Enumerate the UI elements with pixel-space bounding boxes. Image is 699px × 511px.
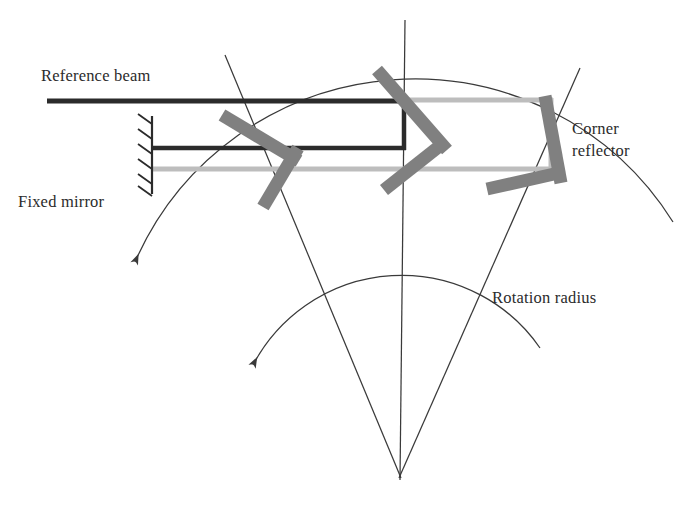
corner-reflector-shallow-bar <box>487 172 563 189</box>
label-rotation-radius: Rotation radius <box>492 288 596 308</box>
center-mirror-upper-bar <box>377 70 447 150</box>
optics-group <box>222 70 563 207</box>
light-beam-group <box>152 98 553 171</box>
label-corner-reflector-line2: reflector <box>572 141 630 160</box>
left-radial-line <box>225 55 401 478</box>
label-reference-beam: Reference beam <box>41 66 151 86</box>
fixed-mirror-hatching <box>138 114 152 196</box>
radial-lines-group <box>225 20 580 480</box>
label-corner-reflector-line1: Corner <box>572 119 619 138</box>
diagram-canvas: Reference beam Fixed mirror Corner refle… <box>0 0 699 511</box>
label-fixed-mirror: Fixed mirror <box>18 192 104 212</box>
fixed-mirror-symbol <box>138 114 152 196</box>
